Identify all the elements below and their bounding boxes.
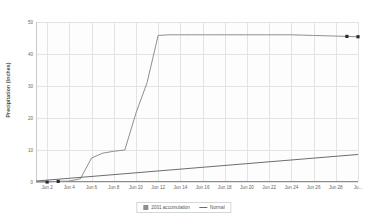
x-axis-tick-label: Jun 14 [173,185,187,190]
series-layer [36,22,358,182]
y-axis-tick-label: 40 [1,52,33,57]
x-axis-tick-label: Jun 16 [196,185,210,190]
y-axis-tick-label: 20 [1,116,33,121]
x-axis-tick-label: Jun 22 [262,185,276,190]
x-axis-tick-label: Jun 26 [307,185,321,190]
series-data-marker [46,180,49,183]
x-axis-tick-labels: Jun 2Jun 4Jun 6Jun 8Jun 10Jun 12Jun 14Ju… [36,185,358,195]
line-swatch-icon [199,207,207,208]
plot-area [36,22,358,182]
gridline-vertical [358,22,359,182]
legend-label: Normal [210,205,225,210]
series-data-marker [57,180,60,183]
box-swatch-icon [143,205,148,210]
x-axis-tick-label: Jun 2 [41,185,52,190]
y-axis-tick-label: 10 [1,148,33,153]
legend-entry[interactable]: 2001 accumulation [143,205,190,210]
y-axis-tick-label: 0 [1,180,33,185]
x-axis-tick-label: Jun 18 [218,185,232,190]
y-axis-tick-labels: 01020304050 [0,22,33,182]
x-axis-tick-label: Ju... [354,185,363,190]
x-axis-tick-label: Jun 6 [86,185,97,190]
series-data-marker [345,35,348,38]
x-axis-tick-label: Jun 10 [129,185,143,190]
x-axis-tick-label: Jun 8 [108,185,119,190]
series-line [36,35,358,182]
chart-legend: 2001 accumulationNormal [136,202,231,213]
precipitation-accumulation-chart: Precipitation (Inches) 01020304050 Jun 2… [0,0,368,216]
x-axis-tick-label: Jun 24 [284,185,298,190]
x-axis-tick-label: Jun 28 [329,185,343,190]
gridline-horizontal [36,182,358,183]
x-axis-tick-label: Jun 12 [151,185,165,190]
x-axis-tick-label: Jun 20 [240,185,254,190]
series-line [36,154,358,181]
y-axis-tick-label: 30 [1,84,33,89]
y-axis-tick-label: 50 [1,20,33,25]
series-data-marker [356,35,359,38]
legend-entry[interactable]: Normal [199,205,225,210]
legend-label: 2001 accumulation [151,205,190,210]
x-axis-tick-label: Jun 4 [64,185,75,190]
